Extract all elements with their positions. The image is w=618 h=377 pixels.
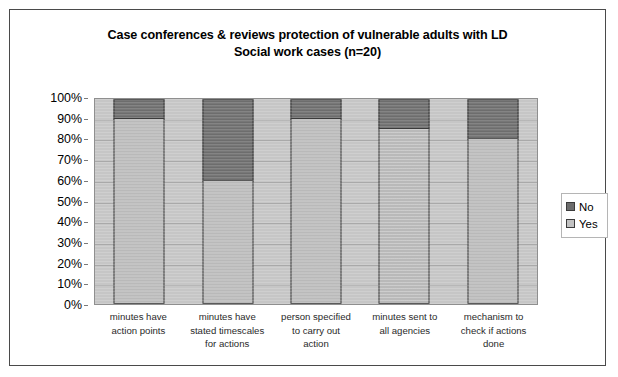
bar-segment-yes[interactable] bbox=[114, 118, 165, 304]
bar-slot bbox=[449, 99, 537, 304]
y-axis-tick-mark bbox=[84, 139, 88, 140]
legend-item[interactable]: No bbox=[566, 198, 604, 215]
bar-segment-yes[interactable] bbox=[291, 118, 342, 304]
legend-item[interactable]: Yes bbox=[566, 215, 604, 232]
bar-slot bbox=[95, 99, 183, 304]
y-axis-tick-label: 50% bbox=[57, 195, 82, 208]
x-axis-label-line: stated timescales bbox=[185, 324, 270, 338]
bar-segment-yes[interactable] bbox=[467, 138, 518, 304]
y-axis-tick-mark bbox=[84, 222, 88, 223]
y-axis-tick-label: 80% bbox=[57, 133, 82, 146]
y-axis-tick-label: 40% bbox=[57, 216, 82, 229]
y-axis-tick-label: 60% bbox=[57, 174, 82, 187]
x-axis-label-line: minutes sent to bbox=[362, 310, 447, 324]
bar-slot bbox=[183, 99, 271, 304]
x-axis-label-line: all agencies bbox=[362, 324, 447, 338]
y-axis: 100%90%80%70%60%50%40%30%20%10%0% bbox=[38, 98, 88, 305]
stacked-bar[interactable] bbox=[291, 99, 342, 304]
y-axis-tick-mark bbox=[84, 243, 88, 244]
x-axis-label-line: minutes have bbox=[96, 310, 181, 324]
bar-slot bbox=[272, 99, 360, 304]
bar-segment-no[interactable] bbox=[114, 99, 165, 120]
chart-subtitle: Social work cases (n=20) bbox=[10, 44, 605, 61]
plot-area bbox=[94, 98, 538, 305]
x-axis-label-line: person specified bbox=[274, 310, 359, 324]
stacked-bar[interactable] bbox=[202, 99, 253, 304]
x-axis-label-line: check if actions bbox=[451, 324, 536, 338]
legend: NoYes bbox=[561, 193, 608, 238]
y-axis-tick-label: 0% bbox=[64, 299, 82, 312]
y-axis-tick-mark bbox=[84, 305, 88, 306]
light-gray-swatch bbox=[566, 219, 575, 228]
bar-segment-yes[interactable] bbox=[379, 128, 430, 304]
x-axis-label-line: action bbox=[274, 337, 359, 351]
bar-segment-yes[interactable] bbox=[202, 180, 253, 304]
y-axis-tick-label: 100% bbox=[50, 92, 82, 105]
bar-slot bbox=[360, 99, 448, 304]
x-axis-label-line: action points bbox=[96, 324, 181, 338]
x-axis-label-line: to carry out bbox=[274, 324, 359, 338]
x-axis-category-label: minutes haveaction points bbox=[94, 310, 183, 351]
legend-item-label: Yes bbox=[579, 218, 598, 230]
stacked-bar[interactable] bbox=[114, 99, 165, 304]
chart-frame: Case conferences & reviews protection of… bbox=[9, 9, 606, 366]
x-axis-category-label: minutes sent toall agencies bbox=[360, 310, 449, 351]
y-axis-tick-mark bbox=[84, 284, 88, 285]
y-axis-tick-label: 10% bbox=[57, 278, 82, 291]
x-axis-category-label: mechanism tocheck if actionsdone bbox=[449, 310, 538, 351]
chart-title-line-1: Case conferences & reviews protection of… bbox=[107, 28, 507, 42]
x-axis-category-label: person specifiedto carry outaction bbox=[272, 310, 361, 351]
y-axis-tick-label: 70% bbox=[57, 154, 82, 167]
x-axis-label-line: minutes have bbox=[185, 310, 270, 324]
bar-series-group bbox=[95, 99, 537, 304]
legend-item-label: No bbox=[579, 201, 594, 213]
y-axis-tick-mark bbox=[84, 264, 88, 265]
stacked-bar[interactable] bbox=[467, 99, 518, 304]
bar-segment-no[interactable] bbox=[291, 99, 342, 120]
x-axis: minutes haveaction pointsminutes havesta… bbox=[94, 310, 538, 351]
stacked-bar[interactable] bbox=[379, 99, 430, 304]
x-axis-label-line: for actions bbox=[185, 337, 270, 351]
bar-segment-no[interactable] bbox=[467, 99, 518, 140]
y-axis-tick-mark bbox=[84, 98, 88, 99]
x-axis-label-line: done bbox=[451, 337, 536, 351]
dark-gray-swatch bbox=[566, 202, 575, 211]
y-axis-tick-mark bbox=[84, 181, 88, 182]
chart-title: Case conferences & reviews protection of… bbox=[10, 27, 605, 61]
y-axis-tick-mark bbox=[84, 119, 88, 120]
y-axis-tick-label: 20% bbox=[57, 257, 82, 270]
y-axis-tick-mark bbox=[84, 160, 88, 161]
y-axis-tick-mark bbox=[84, 202, 88, 203]
x-axis-label-line: mechanism to bbox=[451, 310, 536, 324]
y-axis-tick-label: 90% bbox=[57, 112, 82, 125]
y-axis-tick-label: 30% bbox=[57, 236, 82, 249]
bar-segment-no[interactable] bbox=[202, 99, 253, 182]
x-axis-category-label: minutes havestated timescalesfor actions bbox=[183, 310, 272, 351]
bar-segment-no[interactable] bbox=[379, 99, 430, 130]
